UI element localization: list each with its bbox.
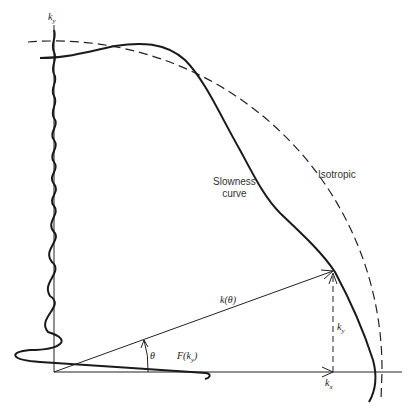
ky-axis-label: ky bbox=[48, 12, 56, 25]
isotropic-curve bbox=[28, 41, 382, 400]
ky-component-label: ky bbox=[337, 322, 345, 335]
theta-arrowhead bbox=[141, 340, 148, 348]
slowness-label-line1: Slowness bbox=[213, 177, 256, 187]
slowness-label-line2: curve bbox=[213, 189, 256, 199]
theta-arc bbox=[144, 340, 148, 372]
diagram-canvas bbox=[0, 0, 412, 410]
k-theta-label: k(θ) bbox=[220, 295, 236, 305]
slowness-curve bbox=[40, 44, 375, 402]
isotropic-label: Isotropic bbox=[318, 170, 356, 180]
theta-label: θ bbox=[150, 351, 155, 361]
f-ky-label: F(ky) bbox=[177, 351, 197, 364]
kx-component-label: kx bbox=[325, 378, 333, 391]
slowness-curve-label: Slowness curve bbox=[213, 177, 256, 199]
